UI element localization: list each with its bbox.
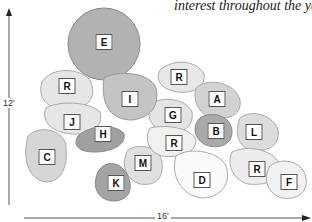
bed-label: C [39,149,56,165]
arrow-up-icon [6,8,12,16]
garden-plan [0,0,312,222]
arrow-right-icon [302,215,311,221]
bed-label: A [209,91,226,107]
bed-label: R [249,161,266,177]
bed-label: L [246,124,263,140]
bed-label: K [108,175,125,191]
bed-label: E [96,34,113,50]
bed-label: R [171,69,188,85]
bed-label: B [208,123,225,139]
bed-label: D [194,172,211,188]
bed-label: J [64,114,81,130]
bed-label: R [166,135,183,151]
bed-label: F [281,174,298,190]
height-label: 12' [1,98,17,108]
bed-label: M [135,155,152,171]
bed-label: R [59,78,76,94]
bed-label: G [165,107,182,123]
bed-label: H [95,126,112,142]
width-label: 16' [155,211,171,221]
bed-label: I [122,91,139,107]
